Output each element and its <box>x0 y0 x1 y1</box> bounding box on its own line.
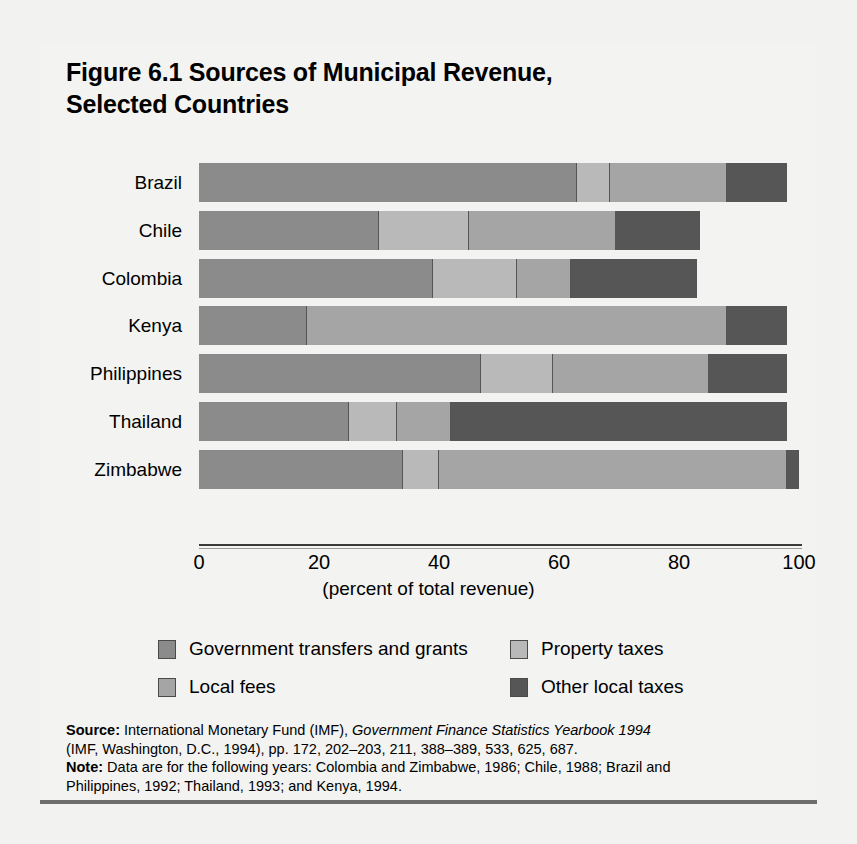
bar-segment <box>469 211 616 250</box>
bar-segment <box>199 306 307 345</box>
bar-segment <box>787 450 799 489</box>
figure-page: Figure 6.1 Sources of Municipal Revenue,… <box>0 0 857 844</box>
legend-label-local-fees: Local fees <box>189 676 276 698</box>
legend-swatch-government-transfers-and-grants <box>158 640 176 659</box>
figure-notes: Source: International Monetary Fund (IMF… <box>66 722 792 796</box>
bar-row: Chile <box>199 211 799 250</box>
bar-segment <box>199 259 433 298</box>
bar-segment <box>199 354 481 393</box>
bar-segment <box>553 354 709 393</box>
legend-row-2: Local fees Other local taxes <box>158 668 778 706</box>
source-italic-title: Government Finance Statistics Yearbook 1… <box>352 722 651 738</box>
bar-segment <box>397 402 451 441</box>
legend-item-property-taxes: Property taxes <box>510 630 664 668</box>
bar-row: Thailand <box>199 402 799 441</box>
legend-row-1: Government transfers and grants Property… <box>158 630 778 668</box>
x-tick-label-20: 20 <box>308 551 330 574</box>
bar-segment <box>709 354 787 393</box>
bar-segment <box>307 306 727 345</box>
x-tick-label-0: 0 <box>193 551 204 574</box>
note-label: Note: <box>66 759 103 775</box>
bar-segment <box>481 354 553 393</box>
bar-segment <box>349 402 397 441</box>
bar-segment <box>571 259 697 298</box>
category-label-philippines: Philippines <box>90 354 199 393</box>
data-note: Note: Data are for the following years: … <box>66 759 792 777</box>
legend-item-other-local-taxes: Other local taxes <box>510 668 684 706</box>
category-label-chile: Chile <box>139 211 199 250</box>
bar-segment <box>451 402 787 441</box>
legend-item-government-transfers-and-grants: Government transfers and grants <box>158 630 468 668</box>
bar-segment <box>379 211 469 250</box>
legend-label-property-taxes: Property taxes <box>541 638 664 660</box>
bar-segment <box>433 259 517 298</box>
legend-swatch-property-taxes <box>510 640 528 659</box>
bar-row: Brazil <box>199 163 799 202</box>
chart-legend: Government transfers and grants Property… <box>158 630 778 706</box>
category-label-colombia: Colombia <box>102 259 199 298</box>
x-axis-line <box>199 544 802 546</box>
category-label-kenya: Kenya <box>128 306 199 345</box>
bar-segment <box>199 450 403 489</box>
figure-title-line1: Figure 6.1 Sources of Municipal Revenue, <box>66 58 553 86</box>
source-text-1: International Monetary Fund (IMF), <box>120 722 352 738</box>
bar-row: Kenya <box>199 306 799 345</box>
legend-label-government-transfers-and-grants: Government transfers and grants <box>189 638 468 660</box>
source-note-cont: (IMF, Washington, D.C., 1994), pp. 172, … <box>66 741 792 759</box>
source-label: Source: <box>66 722 120 738</box>
x-tick-label-40: 40 <box>428 551 450 574</box>
legend-swatch-other-local-taxes <box>510 678 528 697</box>
bar-segment <box>517 259 571 298</box>
x-tick-label-100: 100 <box>782 551 815 574</box>
bar-row: Colombia <box>199 259 799 298</box>
x-axis-title: (percent of total revenue) <box>0 578 857 600</box>
category-label-thailand: Thailand <box>109 402 199 441</box>
x-tick-label-80: 80 <box>668 551 690 574</box>
figure-title: Figure 6.1 Sources of Municipal Revenue,… <box>66 56 746 120</box>
bottom-rule <box>40 800 817 804</box>
bar-segment <box>199 211 379 250</box>
bar-segment <box>199 163 577 202</box>
bar-segment <box>577 163 610 202</box>
bar-row: Zimbabwe <box>199 450 799 489</box>
bar-segment <box>199 402 349 441</box>
x-axis-line-shadow <box>199 548 802 549</box>
source-note: Source: International Monetary Fund (IMF… <box>66 722 792 740</box>
data-note-cont: Philippines, 1992; Thailand, 1993; and K… <box>66 778 792 796</box>
bar-segment <box>727 306 787 345</box>
note-text-1: Data are for the following years: Colomb… <box>103 759 670 775</box>
bar-segment <box>610 163 727 202</box>
x-tick-label-60: 60 <box>548 551 570 574</box>
bar-segment <box>727 163 787 202</box>
category-label-brazil: Brazil <box>134 163 199 202</box>
bar-segment <box>439 450 787 489</box>
category-label-zimbabwe: Zimbabwe <box>94 450 199 489</box>
legend-item-local-fees: Local fees <box>158 668 276 706</box>
bar-segment <box>616 211 700 250</box>
legend-label-other-local-taxes: Other local taxes <box>541 676 684 698</box>
bar-row: Philippines <box>199 354 799 393</box>
legend-swatch-local-fees <box>158 678 176 697</box>
bar-segment <box>403 450 439 489</box>
figure-title-line2: Selected Countries <box>66 88 746 120</box>
chart-plot-area: BrazilChileColombiaKenyaPhilippinesThail… <box>199 163 799 543</box>
